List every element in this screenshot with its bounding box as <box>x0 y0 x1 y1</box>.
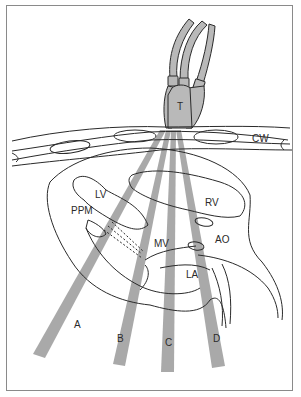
echo-diagram: T CW <box>0 0 301 397</box>
transducer <box>164 85 204 128</box>
beam-a-label: A <box>74 319 81 330</box>
chest-wall-label: CW <box>252 133 269 144</box>
beam-c-label: C <box>165 337 172 348</box>
ultrasound-beams <box>33 130 225 372</box>
rib-1 <box>49 139 90 156</box>
mv-label: MV <box>154 238 169 249</box>
lv-label: LV <box>95 189 107 200</box>
cable-collar-left <box>168 76 178 86</box>
ppm-label: PPM <box>71 205 93 216</box>
beam-b-label: B <box>117 333 124 344</box>
ao-label: AO <box>215 234 230 245</box>
la-label: LA <box>186 269 199 280</box>
rib-2 <box>114 130 156 142</box>
transducer-label: T <box>177 101 183 112</box>
transducer-cables <box>168 19 215 91</box>
rv-label: RV <box>205 197 219 208</box>
beam-d-label: D <box>213 333 220 344</box>
